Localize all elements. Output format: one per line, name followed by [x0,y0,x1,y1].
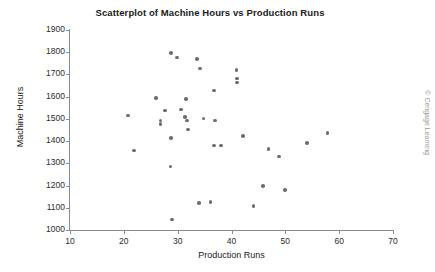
scatter-point [252,204,256,208]
scatter-point [277,155,281,159]
x-tick-label: 40 [227,236,236,246]
chart-title: Scatterplot of Machine Hours vs Producti… [0,7,420,18]
y-tick-mark [66,119,70,120]
scatter-point [185,119,189,123]
scatter-point [175,56,179,60]
y-tick-mark [66,74,70,75]
y-tick-mark [66,30,70,31]
x-tick-mark [232,230,233,234]
x-tick-label: 70 [388,236,397,246]
copyright-credit: © Cengage Learning [424,90,431,155]
y-tick-label: 1700 [46,68,65,78]
scatter-point [186,128,190,132]
scatter-point [209,200,213,204]
x-tick-label: 10 [65,236,74,246]
x-tick-mark [178,230,179,234]
scatter-point [212,89,216,93]
scatter-point [159,122,163,126]
scatter-point [235,68,239,72]
x-tick-label: 20 [119,236,128,246]
scatter-point [184,97,188,101]
y-tick-label: 1000 [46,224,65,234]
y-tick-mark [66,186,70,187]
scatter-point [132,149,136,153]
scatter-point [169,165,173,169]
y-tick-label: 1400 [46,135,65,145]
y-tick-mark [66,141,70,142]
scatter-point [305,141,309,145]
y-axis-label: Machine Hours [15,67,25,167]
y-tick-label: 1300 [46,157,65,167]
plot-area [70,30,393,230]
x-axis-label: Production Runs [70,250,393,260]
x-tick-label: 50 [281,236,290,246]
scatter-point [283,188,287,192]
y-tick-mark [66,208,70,209]
scatter-point [198,67,202,71]
scatter-point [169,136,173,140]
y-tick-label: 1800 [46,46,65,56]
chart-page: Scatterplot of Machine Hours vs Producti… [0,0,435,272]
y-tick-label: 1100 [47,202,65,212]
scatter-point [163,109,167,113]
y-tick-label: 1500 [46,113,65,123]
scatter-point [202,117,206,121]
scatter-point [219,144,223,148]
y-tick-label: 1900 [46,24,65,34]
y-tick-mark [66,97,70,98]
x-tick-label: 30 [173,236,182,246]
x-tick-label: 60 [334,236,343,246]
scatter-point [169,51,173,55]
scatter-point [170,218,174,222]
y-tick-label: 1200 [46,180,65,190]
scatter-point [126,114,130,118]
x-tick-mark [70,230,71,234]
x-tick-mark [339,230,340,234]
x-tick-mark [124,230,125,234]
x-tick-mark [393,230,394,234]
scatter-point [197,201,201,205]
scatter-point [212,144,216,148]
scatter-point [195,57,199,61]
scatter-point [235,77,239,81]
scatter-point [261,184,265,188]
scatter-point [326,131,330,135]
scatter-point [241,134,245,138]
x-tick-mark [285,230,286,234]
y-tick-label: 1600 [46,91,65,101]
y-tick-mark [66,52,70,53]
scatter-point [154,96,158,100]
scatter-point [179,108,183,112]
scatter-point [213,119,217,123]
scatter-point [267,147,271,151]
scatter-point [235,81,239,85]
y-tick-mark [66,163,70,164]
